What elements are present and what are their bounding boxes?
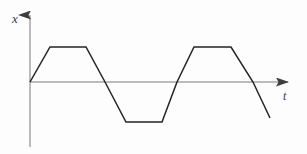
x-axis-label: t: [283, 90, 286, 102]
axis-group: [30, 15, 288, 147]
waveform-trace-group: [30, 47, 270, 122]
y-axis-label: x: [12, 12, 18, 25]
trapezoidal-waveform-trace: [30, 47, 270, 122]
waveform-figure: x t: [0, 0, 307, 154]
waveform-plot-area: [0, 0, 307, 154]
